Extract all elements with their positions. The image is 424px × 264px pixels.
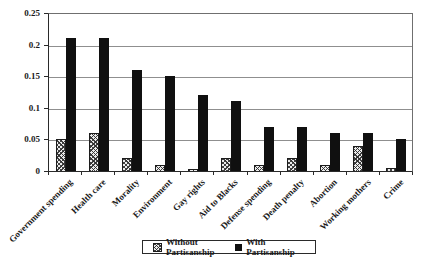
bar [165, 76, 175, 171]
y-axis-tick-label: 0.2 [0, 40, 40, 50]
x-axis-label: Abortion [308, 177, 340, 209]
bar [264, 127, 274, 171]
bar [188, 169, 198, 171]
y-axis-tick-label: 0.25 [0, 8, 40, 18]
bar [297, 127, 307, 171]
legend: Without PartisanshipWith Partisanship [142, 240, 316, 254]
plot-area [48, 13, 413, 172]
x-axis-tick [280, 172, 281, 175]
y-axis-tick [44, 108, 48, 109]
legend-label: With Partisanship [246, 237, 305, 257]
bar [122, 158, 132, 171]
x-axis-tick [114, 172, 115, 175]
bar [56, 139, 66, 171]
bar [231, 101, 241, 171]
y-axis-tick [44, 76, 48, 77]
y-axis-tick [44, 13, 48, 14]
bar [89, 133, 99, 171]
bar [363, 133, 373, 171]
y-axis-tick-label: 0.1 [0, 103, 40, 113]
bar [353, 146, 363, 171]
bar [254, 165, 264, 171]
solid-swatch-icon [235, 244, 242, 251]
x-axis-tick [412, 172, 413, 175]
legend-label: Without Partisanship [166, 237, 235, 257]
bar [155, 165, 165, 171]
y-axis-tick [44, 139, 48, 140]
x-axis-tick [213, 172, 214, 175]
x-axis-tick [81, 172, 82, 175]
x-axis-tick [379, 172, 380, 175]
bar [132, 70, 142, 171]
y-axis-tick-label: 0.15 [0, 71, 40, 81]
x-axis-label: Government spending [7, 177, 74, 244]
legend-item: Without Partisanship [153, 237, 235, 257]
x-axis-tick [48, 172, 49, 175]
x-axis-label: Morality [110, 177, 141, 208]
bar [99, 38, 109, 171]
bar [66, 38, 76, 171]
y-axis-tick-label: 0.05 [0, 134, 40, 144]
y-axis-tick-label: 0 [0, 166, 40, 176]
x-axis-tick [147, 172, 148, 175]
bar [287, 158, 297, 171]
x-axis-tick [247, 172, 248, 175]
y-axis-tick [44, 45, 48, 46]
bar [221, 158, 231, 171]
bar-chart-figure: 00.050.10.150.20.25 Government spendingH… [0, 0, 424, 264]
x-axis-label: Health care [69, 177, 108, 216]
bar [330, 133, 340, 171]
bar [198, 95, 208, 171]
x-axis-tick [313, 172, 314, 175]
bar [396, 139, 406, 171]
x-axis-tick [180, 172, 181, 175]
x-axis-label: Crime [381, 177, 405, 201]
hatched-swatch-icon [153, 243, 162, 252]
x-axis-tick [346, 172, 347, 175]
legend-item: With Partisanship [235, 237, 305, 257]
bar [386, 168, 396, 171]
bar [320, 165, 330, 171]
